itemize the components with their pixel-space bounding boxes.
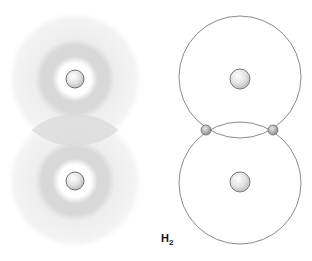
shared-electron-right bbox=[268, 125, 278, 135]
orbit-model bbox=[179, 16, 301, 244]
molecule-label: H2 bbox=[161, 232, 173, 247]
nucleus-top-orbit bbox=[230, 69, 250, 89]
nucleus-bottom-orbit bbox=[230, 172, 250, 192]
molecule-label-main: H bbox=[161, 232, 169, 244]
electron-cloud-model bbox=[8, 12, 142, 248]
molecule-label-subscript: 2 bbox=[169, 238, 173, 247]
shared-electron-left bbox=[201, 125, 211, 135]
nucleus-top-cloud bbox=[66, 70, 84, 88]
h2-molecule-diagram bbox=[0, 0, 312, 261]
nucleus-bottom-cloud bbox=[66, 172, 84, 190]
